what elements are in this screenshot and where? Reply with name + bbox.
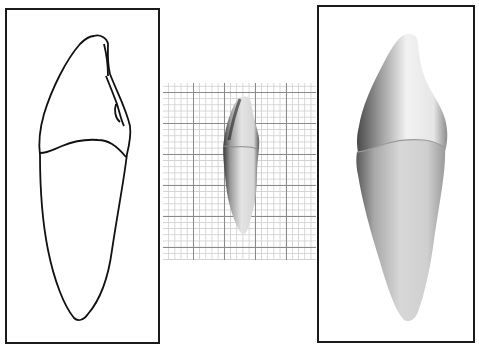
tooth-illustrations xyxy=(0,0,479,352)
tooth-outline-drawing xyxy=(39,35,130,320)
tooth-shaded-rendering xyxy=(356,34,447,321)
tooth-photo xyxy=(223,97,259,235)
